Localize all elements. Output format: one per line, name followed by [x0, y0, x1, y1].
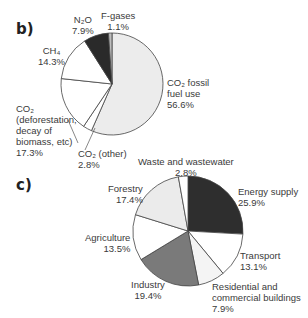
- label-residential: Residential and commercial buildings 7.9…: [212, 281, 301, 314]
- label-waste: Waste and wastewater 2.8%: [138, 156, 234, 178]
- label-ch4: CH₄ 14.3%: [38, 45, 65, 67]
- label-transport: Transport 13.1%: [240, 250, 280, 272]
- pie-slice-energy-supply: [188, 176, 243, 234]
- label-co2-other: CO₂ (other) 2.8%: [78, 148, 127, 170]
- label-forestry: Forestry 17.4%: [108, 183, 143, 205]
- label-co2-deforestation: CO₂ (deforestation, decay of biomass, et…: [16, 103, 77, 158]
- panel-b-label: b): [16, 20, 34, 38]
- panel-c-label: c): [16, 176, 32, 194]
- label-co2-fossil: CO₂ fossil fuel use 56.6%: [167, 77, 209, 110]
- label-agriculture: Agriculture 13.5%: [85, 232, 130, 254]
- leader-co2-other: [85, 128, 95, 150]
- label-fgases: F-gases 1.1%: [101, 10, 135, 32]
- label-energy-supply: Energy supply 25.9%: [238, 186, 298, 208]
- label-industry: Industry 19.4%: [131, 279, 165, 301]
- label-n2o: N₂O 7.9%: [72, 14, 94, 36]
